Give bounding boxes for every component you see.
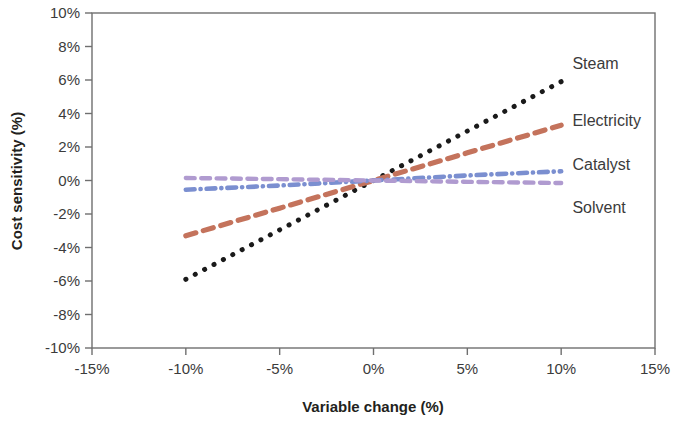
y-tick-label: 4%	[58, 105, 80, 122]
y-axis-ticks	[85, 13, 92, 348]
y-tick-label: -10%	[45, 339, 80, 356]
sensitivity-chart: -10%-8%-6%-4%-2%0%2%4%6%8%10% -15%-10%-5…	[0, 0, 673, 421]
x-axis-ticks	[92, 348, 655, 355]
x-axis-tick-labels: -15%-10%-5%0%5%10%15%	[74, 360, 670, 377]
x-tick-label: -15%	[74, 360, 109, 377]
x-tick-label: 15%	[640, 360, 670, 377]
y-tick-label: 0%	[58, 172, 80, 189]
y-axis-tick-labels: -10%-8%-6%-4%-2%0%2%4%6%8%10%	[45, 4, 80, 356]
y-axis-title: Cost sensitivity (%)	[8, 112, 25, 250]
series-label-steam: Steam	[572, 55, 618, 72]
series-label-electricity: Electricity	[572, 112, 640, 129]
x-tick-label: 10%	[546, 360, 576, 377]
x-tick-label: 0%	[363, 360, 385, 377]
x-tick-label: -10%	[168, 360, 203, 377]
y-tick-label: -8%	[53, 306, 80, 323]
x-axis-title: Variable change (%)	[302, 398, 444, 415]
chart-canvas: -10%-8%-6%-4%-2%0%2%4%6%8%10% -15%-10%-5…	[0, 0, 673, 421]
y-tick-label: 2%	[58, 138, 80, 155]
y-tick-label: -4%	[53, 239, 80, 256]
y-tick-label: 6%	[58, 71, 80, 88]
x-tick-label: -5%	[266, 360, 293, 377]
series-label-catalyst: Catalyst	[572, 156, 630, 173]
x-tick-label: 5%	[456, 360, 478, 377]
y-tick-label: -2%	[53, 205, 80, 222]
y-tick-label: -6%	[53, 272, 80, 289]
y-tick-label: 8%	[58, 38, 80, 55]
y-tick-label: 10%	[50, 4, 80, 21]
series-label-solvent: Solvent	[572, 199, 626, 216]
